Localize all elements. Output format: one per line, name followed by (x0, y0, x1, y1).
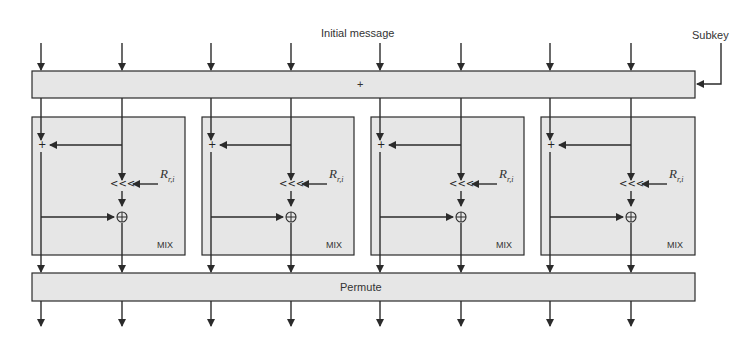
rotation-constant-label: Rr,i (669, 166, 683, 184)
add-icon: + (547, 139, 555, 150)
rotation-subscript: r,i (168, 175, 174, 184)
rotation-label: R (669, 166, 677, 181)
mix-label: MIX (157, 240, 173, 250)
mix-label: MIX (326, 240, 342, 250)
subkey-add-symbol: + (357, 78, 363, 90)
mix-box-2 (202, 117, 354, 255)
rotation-label: R (160, 166, 168, 181)
add-icon: + (38, 139, 46, 150)
rotation-label: R (499, 166, 507, 181)
initial-message-label: Initial message (321, 27, 394, 39)
rotation-subscript: r,i (507, 175, 513, 184)
rotate-left-icon: <<< (110, 178, 135, 189)
mix-label: MIX (496, 240, 512, 250)
add-icon: + (377, 139, 385, 150)
rotation-constant-label: Rr,i (329, 166, 343, 184)
mix-box-4 (541, 117, 695, 255)
subkey-label: Subkey (692, 29, 729, 41)
rotate-left-icon: <<< (619, 178, 644, 189)
rotation-constant-label: Rr,i (160, 166, 174, 184)
rotate-left-icon: <<< (449, 178, 474, 189)
rotate-left-icon: <<< (279, 178, 304, 189)
mix-box-1 (32, 117, 185, 255)
mix-box-3 (371, 117, 524, 255)
rotation-subscript: r,i (337, 175, 343, 184)
rotation-constant-label: Rr,i (499, 166, 513, 184)
permute-label: Permute (340, 281, 382, 293)
rotation-label: R (329, 166, 337, 181)
mix-label: MIX (667, 240, 683, 250)
add-icon: + (208, 139, 216, 150)
subkey-add-bar (32, 71, 695, 98)
rotation-subscript: r,i (677, 175, 683, 184)
